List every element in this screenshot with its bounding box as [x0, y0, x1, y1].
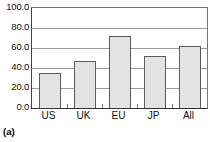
x-tick-label-jp: JP [134, 110, 174, 122]
bar-us [39, 73, 61, 108]
x-tick-label-all: All [169, 110, 209, 122]
y-tick-label: 80.0 [11, 22, 29, 32]
bar-all [179, 46, 201, 108]
y-tick-label: 60.0 [11, 42, 29, 52]
y-tick-label: 0.0 [16, 102, 29, 112]
bar-eu [109, 36, 131, 108]
y-tick-label: 40.0 [11, 62, 29, 72]
x-tick-label-eu: EU [99, 110, 139, 122]
x-axis: USUKEUJPAll [31, 110, 206, 124]
y-axis: 100.080.060.040.020.00.0 [0, 0, 30, 114]
plot-area [31, 7, 208, 109]
y-tick-label: 20.0 [11, 82, 29, 92]
bar-uk [74, 61, 96, 108]
figure-panel-a: 100.080.060.040.020.00.0 USUKEUJPAll (a) [0, 0, 210, 142]
x-axis-tick [137, 104, 138, 108]
x-axis-tick [67, 104, 68, 108]
x-axis-tick [172, 104, 173, 108]
bar-series [32, 8, 207, 108]
x-tick-label-us: US [29, 110, 69, 122]
x-tick-label-uk: UK [64, 110, 104, 122]
x-axis-tick [102, 104, 103, 108]
bar-jp [144, 56, 166, 108]
figure-caption: (a) [3, 126, 15, 137]
y-tick-label: 100.0 [6, 2, 29, 12]
